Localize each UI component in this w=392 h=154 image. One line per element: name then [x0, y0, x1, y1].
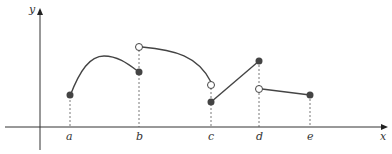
open-dot-d [256, 86, 263, 93]
open-dot-c [208, 82, 215, 89]
filled-dot-b [136, 69, 143, 76]
y-axis-label: y [28, 3, 36, 16]
points [67, 44, 314, 106]
filled-dot-c [208, 99, 215, 106]
piece-a-b [70, 56, 139, 96]
tick-label-e: e [307, 130, 314, 143]
y-axis-arrow-icon [37, 8, 43, 15]
filled-dot-a [67, 92, 74, 99]
function-graph: y x a b c d e [0, 0, 392, 154]
piece-b-c [142, 47, 211, 82]
tick-label-a: a [66, 130, 73, 143]
tick-label-c: c [208, 130, 214, 143]
function-curves [70, 47, 310, 102]
tick-label-b: b [136, 130, 143, 143]
filled-dot-d [256, 58, 263, 65]
filled-dot-e [307, 92, 314, 99]
x-axis-label: x [380, 130, 387, 143]
piece-c-d [211, 61, 259, 102]
tick-label-d: d [256, 130, 263, 143]
dashed-guides [70, 50, 310, 127]
piece-d-e [262, 89, 310, 95]
open-dot-b [136, 44, 143, 51]
